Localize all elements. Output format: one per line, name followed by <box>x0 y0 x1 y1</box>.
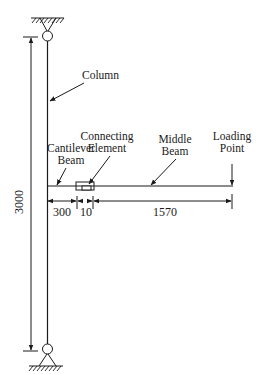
middle-beam-length-label: 1570 <box>153 205 177 219</box>
middle-label-line2: Beam <box>162 145 189 157</box>
connector-length-label: 10 <box>80 205 92 219</box>
structural-diagram: 3000 300 10 1570 Column Cantilever Beam … <box>0 0 264 374</box>
cantilever-label-line2: Beam <box>58 154 85 166</box>
connecting-element-icon <box>76 182 94 190</box>
beam-dimensions <box>48 194 232 209</box>
cantilever-length-label: 300 <box>53 205 71 219</box>
connecting-label-line2: Element <box>88 142 127 154</box>
cantilever-leader <box>57 168 66 185</box>
bottom-pin-support-icon <box>29 344 63 371</box>
middle-label-line1: Middle <box>158 133 191 145</box>
top-pin-support-icon <box>31 18 64 41</box>
column-height-label: 3000 <box>12 190 26 214</box>
middle-leader <box>151 159 176 185</box>
column-leader <box>50 83 84 101</box>
connecting-leader <box>89 156 110 184</box>
column-label: Column <box>82 69 119 81</box>
loading-label-line2: Point <box>220 142 245 154</box>
